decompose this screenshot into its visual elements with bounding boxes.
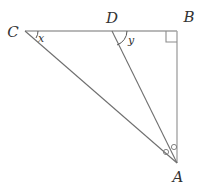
vertex-label-d: D [105,9,118,27]
geometry-diagram-canvas: C D B A x y [0,0,204,190]
geometry-figure: C D B A x y [0,0,204,190]
vertex-label-c: C [7,23,19,41]
vertex-label-a: A [171,168,184,186]
angle-arc-d [117,31,127,45]
segment-da [112,31,177,163]
congruent-angle-mark-dab [171,144,176,149]
vertex-label-b: B [182,8,194,26]
segment-ca [25,31,177,163]
angle-label-x: x [38,32,45,45]
right-angle-mark-b [166,31,177,42]
angle-label-y: y [127,34,135,47]
